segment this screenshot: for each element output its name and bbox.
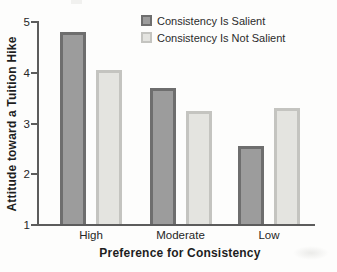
chart-legend: Consistency Is Salient Consistency Is No… — [141, 12, 285, 46]
legend-label-salient: Consistency Is Salient — [157, 15, 265, 27]
bar-consistency-is-not-salient-high — [96, 70, 122, 225]
x-axis-line — [36, 224, 315, 226]
bar-consistency-is-not-salient-low — [274, 108, 300, 225]
scan-artifact-smudge — [293, 246, 329, 260]
y-tick-mark-5 — [31, 21, 37, 23]
y-tick-mark-2 — [31, 173, 37, 175]
y-tick-label-4: 4 — [10, 66, 30, 80]
legend-item-salient: Consistency Is Salient — [141, 12, 285, 29]
bar-consistency-is-not-salient-moderate — [186, 111, 212, 225]
bar-chart-figure: Attitude toward a Tuition Hike Consisten… — [0, 0, 337, 272]
legend-swatch-not-salient — [141, 32, 152, 43]
y-tick-label-1: 1 — [10, 218, 30, 232]
y-tick-label-2: 2 — [10, 167, 30, 181]
legend-label-not-salient: Consistency Is Not Salient — [157, 32, 285, 44]
bar-consistency-is-salient-high — [60, 32, 86, 225]
y-tick-mark-4 — [31, 72, 37, 74]
x-category-label-high: High — [49, 229, 133, 241]
x-category-label-low: Low — [227, 229, 311, 241]
legend-item-not-salient: Consistency Is Not Salient — [141, 29, 285, 46]
y-tick-label-3: 3 — [10, 117, 30, 131]
y-tick-mark-3 — [31, 123, 37, 125]
x-axis-title: Preference for Consistency — [42, 246, 318, 260]
scan-artifact-top — [71, 0, 82, 4]
bar-consistency-is-salient-moderate — [150, 88, 176, 225]
bar-consistency-is-salient-low — [238, 146, 264, 225]
y-tick-label-5: 5 — [10, 15, 30, 29]
legend-swatch-salient — [141, 15, 152, 26]
x-category-label-moderate: Moderate — [139, 229, 223, 241]
y-axis-line — [37, 21, 39, 226]
